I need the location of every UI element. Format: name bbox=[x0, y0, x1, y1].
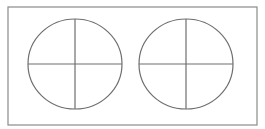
right-circle-cross bbox=[139, 19, 233, 109]
frame-rectangle bbox=[8, 7, 257, 125]
left-circle-cross bbox=[28, 19, 122, 109]
diagram-canvas bbox=[0, 0, 265, 129]
